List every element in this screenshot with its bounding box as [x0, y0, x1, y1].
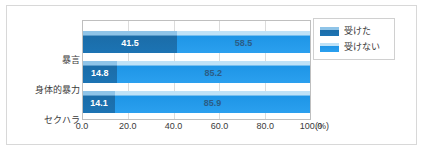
bar-row: 41.5 58.5: [83, 31, 310, 53]
bar-value-label: 58.5: [235, 39, 253, 48]
bar-row: 14.8 85.2: [83, 61, 310, 83]
bar-segment-not-received[interactable]: 58.5: [177, 31, 310, 53]
bar-row: 14.1 85.9: [83, 91, 310, 113]
bar-segment-received[interactable]: 14.1: [83, 91, 115, 113]
xtick-80: 80.0: [256, 121, 274, 131]
plot-area: 41.5 58.5 14.8 85.2 14.1 85.9: [82, 20, 311, 120]
bar-value-label: 85.9: [204, 99, 222, 108]
legend-label: 受けた: [344, 27, 371, 36]
xtick-60: 60.0: [211, 121, 229, 131]
legend-item-not-received[interactable]: 受けない: [318, 39, 390, 55]
value-axis: 0.0 20.0 40.0 60.0 80.0 100.0: [82, 121, 311, 137]
bar-value-label: 14.1: [90, 99, 108, 108]
chart-figure: 暴言 身体的暴力 セクハラ 41.5 58.5 14.8 85.2: [0, 0, 423, 151]
bar-segment-received[interactable]: 41.5: [83, 31, 177, 53]
category-label-2: セクハラ: [4, 116, 80, 125]
legend: 受けた 受けない: [313, 18, 395, 60]
legend-swatch-icon: [320, 27, 339, 36]
category-axis: 暴言 身体的暴力 セクハラ: [0, 20, 80, 120]
bar-value-label: 41.5: [121, 39, 139, 48]
legend-swatch-icon: [320, 43, 339, 52]
xtick-0: 0.0: [76, 121, 89, 131]
legend-item-received[interactable]: 受けた: [318, 23, 390, 39]
bar-segment-not-received[interactable]: 85.2: [117, 61, 310, 83]
xtick-40: 40.0: [165, 121, 183, 131]
category-label-1: 身体的暴力: [4, 86, 80, 95]
bar-value-label: 85.2: [205, 69, 223, 78]
xtick-20: 20.0: [119, 121, 137, 131]
bar-value-label: 14.8: [91, 69, 109, 78]
bar-segment-not-received[interactable]: 85.9: [115, 91, 310, 113]
axis-unit-label: (%): [315, 121, 329, 131]
category-label-0: 暴言: [4, 56, 80, 65]
legend-label: 受けない: [344, 43, 380, 52]
bar-segment-received[interactable]: 14.8: [83, 61, 117, 83]
